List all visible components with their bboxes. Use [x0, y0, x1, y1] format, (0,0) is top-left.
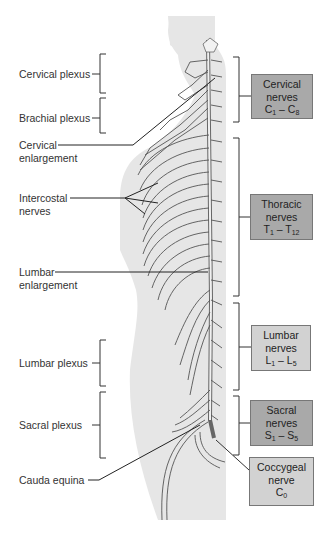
label-text: enlargement — [19, 152, 77, 165]
label-text: Brachial plexus — [19, 112, 90, 124]
label-intercostal-nerves: Intercostal nerves — [19, 192, 67, 218]
box-lumbar-nerves: Lumbar nerves L1 – L5 — [251, 325, 311, 371]
box-cervical-nerves: Cervical nerves C1 – C8 — [251, 74, 313, 119]
box-title: Lumbar — [252, 329, 310, 342]
label-brachial-plexus: Brachial plexus — [19, 112, 90, 125]
box-sacral-nerves: Sacral nerves S1 – S5 — [250, 400, 313, 446]
box-title: Coccygeal — [250, 461, 313, 474]
box-coccygeal-nerve: Coccygeal nerve C0 — [249, 457, 314, 506]
box-title: Thoracic — [251, 198, 312, 211]
box-range: C0 — [250, 486, 313, 503]
label-cervical-enlargement: Cervical enlargement — [19, 139, 77, 165]
box-range: S1 – S5 — [251, 429, 312, 446]
box-title: Sacral — [251, 404, 312, 417]
label-text: Cauda equina — [19, 474, 84, 486]
box-type: nerves — [251, 417, 312, 430]
box-type: nerves — [251, 211, 312, 224]
label-text: enlargement — [19, 279, 77, 292]
label-lumbar-plexus: Lumbar plexus — [19, 357, 88, 370]
label-text: Lumbar — [19, 266, 77, 279]
label-text: Intercostal — [19, 192, 67, 205]
label-cervical-plexus: Cervical plexus — [19, 68, 90, 81]
label-sacral-plexus: Sacral plexus — [19, 419, 82, 432]
box-type: nerves — [252, 342, 310, 355]
label-text: Sacral plexus — [19, 419, 82, 431]
box-range: C1 – C8 — [252, 103, 312, 120]
label-lumbar-enlargement: Lumbar enlargement — [19, 266, 77, 292]
box-range: T1 – T12 — [251, 223, 312, 240]
box-thoracic-nerves: Thoracic nerves T1 – T12 — [250, 194, 313, 240]
label-text: Cervical — [19, 139, 77, 152]
label-cauda-equina: Cauda equina — [19, 474, 84, 487]
box-range: L1 – L5 — [252, 354, 310, 371]
label-text: Cervical plexus — [19, 68, 90, 80]
label-text: Lumbar plexus — [19, 357, 88, 369]
label-text: nerves — [19, 205, 67, 218]
box-title: Cervical — [252, 78, 312, 91]
box-type: nerve — [250, 474, 313, 487]
left-brackets — [92, 54, 106, 458]
box-type: nerves — [252, 91, 312, 104]
